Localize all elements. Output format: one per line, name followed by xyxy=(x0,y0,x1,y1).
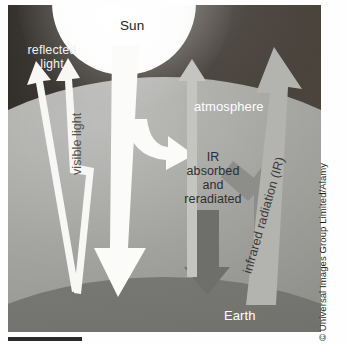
label-earth: Earth xyxy=(224,309,256,324)
label-reflected-light: reflected light xyxy=(14,43,90,71)
caption-rule xyxy=(8,337,82,341)
page-root: Sun reflected light visible light atmosp… xyxy=(0,0,346,345)
label-visible-light: visible light xyxy=(70,113,84,175)
image-credit: © Universal Images Group Limited/Alamy xyxy=(317,163,328,341)
label-ir-absorbed-reradiated: IR absorbed and reradiated xyxy=(174,150,252,206)
label-atmosphere: atmosphere xyxy=(194,100,264,115)
label-sun: Sun xyxy=(120,18,144,33)
greenhouse-effect-figure: Sun reflected light visible light atmosp… xyxy=(8,5,321,332)
